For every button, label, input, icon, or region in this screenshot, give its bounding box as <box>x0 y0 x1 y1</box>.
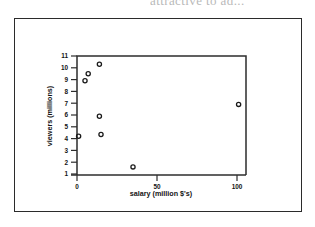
y-tick-label: 1 <box>64 170 68 177</box>
data-point <box>99 132 103 136</box>
x-tick-label: 0 <box>75 183 79 190</box>
scatter-plot: 1234567891011 050100 salary (million $'s… <box>0 0 315 227</box>
data-point-group <box>77 62 241 169</box>
data-point <box>237 102 241 106</box>
data-point <box>77 134 81 138</box>
plot-canvas: 1234567891011 050100 salary (million $'s… <box>0 0 315 227</box>
y-tick-label: 7 <box>64 100 68 107</box>
data-point <box>83 79 87 83</box>
y-tick-label: 6 <box>64 111 68 118</box>
data-point <box>86 72 90 76</box>
data-point <box>131 165 135 169</box>
y-tick-label: 11 <box>61 52 68 59</box>
y-tick-label: 8 <box>64 88 68 95</box>
data-point <box>97 62 101 66</box>
y-tick-label: 9 <box>64 76 68 83</box>
y-tick-label: 4 <box>64 135 68 142</box>
x-axis-ticks: 050100 <box>75 175 243 190</box>
y-axis-title: viewers (millions) <box>45 85 54 146</box>
y-tick-label: 10 <box>61 64 69 71</box>
y-axis-ticks: 1234567891011 <box>61 52 77 177</box>
y-tick-label: 3 <box>64 147 68 154</box>
y-tick-label: 5 <box>64 123 68 130</box>
y-tick-label: 2 <box>64 159 68 166</box>
data-point <box>97 114 101 118</box>
x-tick-label: 100 <box>232 183 243 190</box>
x-axis-title: salary (million $'s) <box>130 189 193 198</box>
